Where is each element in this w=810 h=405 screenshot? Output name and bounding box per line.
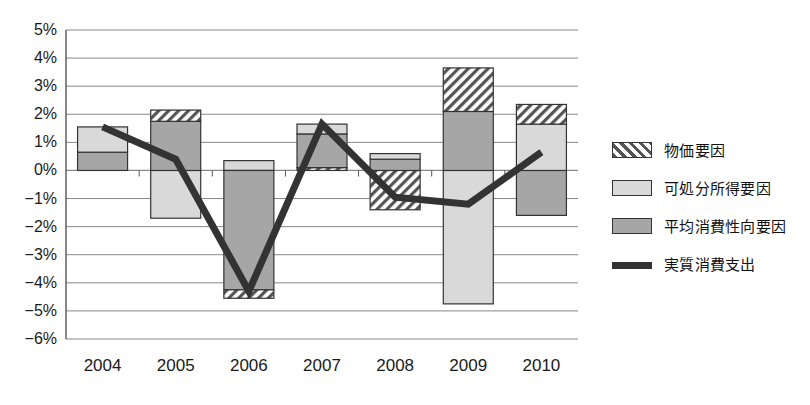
- bar-segment-2006-propensity: [224, 170, 274, 289]
- y-axis-tick-label: 0%: [34, 162, 57, 178]
- bar-segment-2005-price: [151, 110, 201, 121]
- y-axis-tick-label: −3%: [25, 247, 57, 263]
- consumption-factor-decomposition-chart: 5%4%3%2%1%0%−1%−2%−3%−4%−5%−6%2004200520…: [0, 0, 810, 405]
- legend-swatch-medium: [612, 218, 652, 234]
- bar-group-2010: [516, 104, 566, 215]
- x-axis-tick-label-2009: 2009: [433, 357, 503, 374]
- x-axis-tick-label-2010: 2010: [506, 357, 576, 374]
- chart-canvas: [0, 0, 810, 405]
- legend-label-1: 可処分所得要因: [664, 181, 771, 196]
- y-axis-tick-label: 5%: [34, 22, 57, 38]
- bar-segment-2009-propensity: [443, 111, 493, 170]
- x-axis-tick-label-2007: 2007: [287, 357, 357, 374]
- x-axis-tick-label-2006: 2006: [214, 357, 284, 374]
- y-axis-tick-label: −2%: [25, 219, 57, 235]
- x-axis-tick-label-2004: 2004: [68, 357, 138, 374]
- legend-swatch-line: [612, 262, 652, 269]
- y-axis-tick-label: 1%: [34, 134, 57, 150]
- y-axis-tick-label: 3%: [34, 78, 57, 94]
- bar-segment-2008-disposable_income: [370, 154, 420, 160]
- legend-label-0: 物価要因: [664, 143, 725, 158]
- y-axis-tick-label: −4%: [25, 275, 57, 291]
- bar-segment-2008-propensity: [370, 159, 420, 170]
- y-axis-tick-label: −6%: [25, 331, 57, 347]
- bar-segment-2010-propensity: [516, 170, 566, 215]
- x-axis-tick-label-2005: 2005: [141, 357, 211, 374]
- y-axis-tick-label: 4%: [34, 50, 57, 66]
- legend-swatch-light: [612, 180, 652, 196]
- bar-group-2006: [224, 161, 274, 299]
- y-axis-tick-label: 2%: [34, 106, 57, 122]
- legend-swatch-hatch: [612, 142, 652, 158]
- bar-segment-2006-disposable_income: [224, 161, 274, 171]
- bar-segment-2004-propensity: [78, 152, 128, 170]
- x-axis-tick-label-2008: 2008: [360, 357, 430, 374]
- legend-label-2: 平均消費性向要因: [664, 219, 786, 234]
- bar-segment-2010-price: [516, 104, 566, 124]
- bar-group-2009: [443, 68, 493, 304]
- y-axis-tick-label: −1%: [25, 191, 57, 207]
- legend-label-3: 実質消費支出: [664, 257, 756, 272]
- bar-segment-2009-price: [443, 68, 493, 112]
- y-axis-tick-label: −5%: [25, 303, 57, 319]
